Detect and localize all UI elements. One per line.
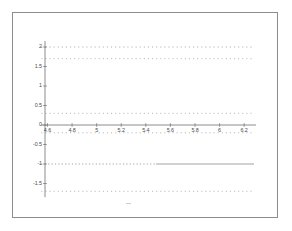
y-tick-label-6: -1	[20, 161, 42, 166]
y-tick-label-5: -0.5	[20, 142, 42, 147]
x-tick-label-5: 5.6	[161, 128, 179, 133]
x-tick-label-0: 4.6	[38, 128, 56, 133]
figure-root: 21.510.50-0.5-1-1.5 4.64.855.25.45.65.86…	[0, 0, 292, 231]
x-tick-label-8: 6.2	[235, 128, 253, 133]
x-tick-label-4: 5.4	[137, 128, 155, 133]
y-tick-label-3: 0.5	[20, 103, 42, 108]
y-tick-label-2: 1	[20, 83, 42, 88]
x-tick-label-1: 4.8	[63, 128, 81, 133]
x-tick-label-6: 5.8	[186, 128, 204, 133]
x-tick-label-7: 6	[211, 128, 229, 133]
x-tick-label-2: 5	[88, 128, 106, 133]
x-tick-label-3: 5.2	[112, 128, 130, 133]
y-tick-label-1: 1.5	[20, 64, 42, 69]
y-tick-label-0: 2	[20, 44, 42, 49]
plot-frame-border	[12, 12, 278, 218]
footer-artifact-mark	[126, 203, 131, 204]
y-tick-label-7: -1.5	[20, 181, 42, 186]
